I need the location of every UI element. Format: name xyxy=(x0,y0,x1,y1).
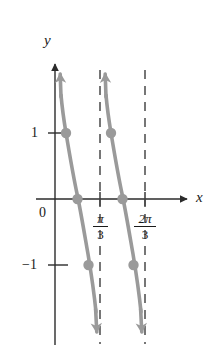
math-graph-figure: y x 0 1 −1 π 3 2π 3 xyxy=(0,0,220,352)
pi-over-3-denominator: 3 xyxy=(90,227,111,241)
curve-branch-2-top-arrow xyxy=(105,74,106,97)
y-axis-label: y xyxy=(44,33,51,48)
y-tick-label-neg-1: −1 xyxy=(22,258,37,272)
graph-canvas xyxy=(0,0,220,352)
axes-group xyxy=(36,64,187,345)
point-branch2-y1 xyxy=(106,128,116,138)
y-tick-label-1: 1 xyxy=(31,126,38,140)
2pi-over-3-denominator: 3 xyxy=(131,227,159,241)
point-branch1-yneg1 xyxy=(83,260,93,270)
x-axis-label: x xyxy=(196,190,203,205)
pi-over-3-numerator: π xyxy=(90,212,111,226)
x-tick-label-2pi-over-3: 2π 3 xyxy=(131,212,159,241)
curve-branch-1-top-arrow xyxy=(60,74,61,97)
origin-label: 0 xyxy=(39,206,46,220)
curve-branch-1-bottom-arrow xyxy=(96,309,97,332)
point-branch2-zero xyxy=(117,194,127,204)
point-branch1-zero xyxy=(72,194,82,204)
2pi-over-3-numerator: 2π xyxy=(131,212,159,226)
curve-branch-2-bottom-arrow xyxy=(141,309,142,332)
point-branch2-yneg1 xyxy=(128,260,138,270)
x-tick-label-pi-over-3: π 3 xyxy=(90,212,111,241)
point-branch1-y1 xyxy=(61,128,71,138)
